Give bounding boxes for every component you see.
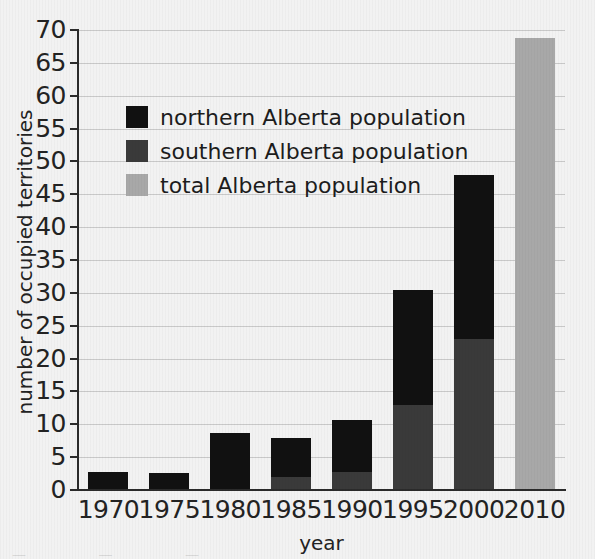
bar-segment [332, 472, 372, 490]
gridline [78, 96, 565, 97]
bar-group [149, 473, 189, 490]
bar-segment [393, 405, 433, 490]
legend-swatch-icon [126, 174, 148, 196]
x-tick-label: 2000 [443, 497, 505, 522]
y-tick-mark [70, 226, 78, 228]
bar-group [393, 290, 433, 490]
x-tick-label: 1970 [78, 497, 140, 522]
chart-figure: 0510152025303540455055606570 19701975198… [0, 0, 595, 559]
y-tick-mark [70, 390, 78, 392]
plot-area [78, 30, 565, 490]
x-tick-label: 1990 [321, 497, 383, 522]
bar-group [210, 433, 250, 490]
gridline [78, 63, 565, 64]
gridline [78, 30, 565, 31]
x-axis-line [77, 489, 566, 491]
y-tick-mark [70, 259, 78, 261]
bar-segment [210, 433, 250, 490]
y-tick-mark [70, 358, 78, 360]
bar-group [515, 38, 555, 490]
y-tick-label: 65 [4, 50, 66, 75]
y-tick-label: 5 [4, 444, 66, 469]
legend-swatch-icon [126, 106, 148, 128]
bar-group [332, 420, 372, 490]
y-tick-mark [70, 193, 78, 195]
legend-swatch-icon [126, 140, 148, 162]
legend-label: southern Alberta population [160, 139, 468, 164]
x-tick-label: 1995 [382, 497, 444, 522]
chart-legend: northern Alberta populationsouthern Albe… [126, 100, 468, 202]
legend-label: total Alberta population [160, 173, 421, 198]
legend-item: northern Alberta population [126, 100, 468, 134]
y-tick-mark [70, 423, 78, 425]
y-axis-title: number of occupied territories [13, 97, 37, 427]
bar-segment [271, 438, 311, 477]
y-tick-mark [70, 325, 78, 327]
legend-item: southern Alberta population [126, 134, 468, 168]
bar-segment [454, 339, 494, 490]
y-tick-mark [70, 95, 78, 97]
y-tick-mark [70, 456, 78, 458]
legend-item: total Alberta population [126, 168, 468, 202]
bar-segment [149, 473, 189, 490]
y-tick-mark [70, 62, 78, 64]
bar-segment [515, 38, 555, 490]
y-tick-mark [70, 29, 78, 31]
bar-segment [332, 420, 372, 472]
x-tick-label: 1975 [139, 497, 201, 522]
bar-group [454, 175, 494, 490]
x-tick-label: 1980 [199, 497, 261, 522]
bar-group [271, 438, 311, 490]
y-tick-label: 70 [4, 17, 66, 42]
bar-segment [88, 472, 128, 490]
caption-fragment: — — — [12, 546, 233, 556]
y-tick-mark [70, 292, 78, 294]
y-tick-mark [70, 489, 78, 491]
legend-label: northern Alberta population [160, 105, 466, 130]
y-tick-mark [70, 160, 78, 162]
x-tick-label: 2010 [504, 497, 566, 522]
bar-group [88, 472, 128, 490]
x-tick-label: 1985 [260, 497, 322, 522]
bar-segment [393, 290, 433, 406]
y-tick-label: 0 [4, 477, 66, 502]
y-tick-mark [70, 128, 78, 130]
